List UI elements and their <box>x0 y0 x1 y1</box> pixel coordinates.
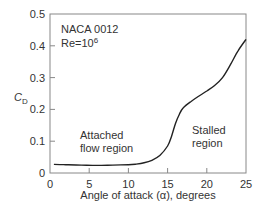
x-axis-title: Angle of attack (α), degrees <box>80 189 216 201</box>
y-axis-title: CD <box>14 91 28 106</box>
y-tick-label: 0.2 <box>30 103 45 115</box>
airfoil-label: NACA 0012 <box>61 23 118 35</box>
cd-chart: 00.10.20.30.40.5 0510152025 NACA 0012 Re… <box>0 0 264 216</box>
y-tick-label: 0.5 <box>30 8 45 20</box>
y-tick-label: 0.3 <box>30 72 45 84</box>
attached-label-line1: Attached <box>80 129 123 141</box>
y-tick-label: 0.1 <box>30 135 45 147</box>
reynolds-label: Re=106 <box>61 36 99 49</box>
y-axis: 00.10.20.30.40.5 <box>30 8 55 179</box>
x-tick-label: 25 <box>240 178 252 190</box>
stalled-label-line1: Stalled <box>192 124 226 136</box>
x-axis: 0510152025 <box>47 168 252 190</box>
x-tick-label: 0 <box>47 178 53 190</box>
attached-label-line2: flow region <box>80 142 133 154</box>
y-tick-label: 0.4 <box>30 40 45 52</box>
stalled-label-line2: region <box>192 137 223 149</box>
y-tick-label: 0 <box>39 167 45 179</box>
